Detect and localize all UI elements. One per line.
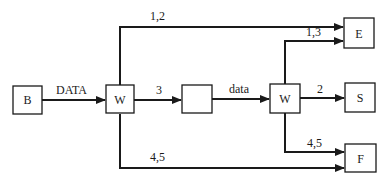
edge-label-data-upper: DATA (56, 83, 87, 97)
edge-label-2: 2 (317, 82, 323, 96)
node-s: S (345, 83, 375, 112)
edge-label-1-3: 1,3 (306, 25, 321, 39)
node-b-label: B (23, 93, 31, 107)
node-f-label: F (357, 152, 364, 166)
edge-label-4-5-bottom: 4,5 (150, 150, 165, 164)
node-w2: W (270, 84, 300, 113)
edge-w2-to-e (285, 41, 343, 84)
node-e-label: E (355, 27, 362, 41)
edge-label-1-2: 1,2 (150, 9, 165, 23)
node-w2-label: W (279, 92, 291, 106)
node-s-label: S (357, 91, 364, 105)
edge-label-4-5-right: 4,5 (307, 136, 322, 150)
edge-label-3: 3 (156, 83, 162, 97)
node-b: B (13, 86, 42, 114)
node-w1: W (106, 85, 134, 113)
node-f: F (345, 144, 376, 172)
node-blank (182, 85, 212, 113)
node-e: E (344, 18, 374, 48)
node-w1-label: W (114, 93, 126, 107)
edge-label-data-lower: data (229, 82, 250, 96)
diagram-canvas: DATA 3 data 1,2 1,3 2 4,5 4,5 B W W E S … (0, 0, 389, 181)
